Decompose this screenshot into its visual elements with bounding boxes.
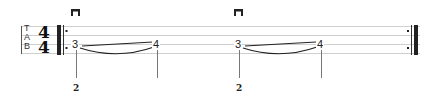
end-repeat-barline — [407, 25, 418, 55]
staff-lines — [22, 27, 420, 54]
fret-number[interactable]: 4 — [152, 39, 160, 50]
finger-number: 2 — [73, 83, 79, 93]
time-signature-denominator: 4 — [38, 40, 50, 55]
staff-graphics — [0, 0, 436, 99]
fret-number[interactable]: 3 — [234, 39, 242, 50]
tablature-staff: T A B 4 4 3 4 3 4 2 2 — [0, 0, 436, 99]
fret-number[interactable]: 4 — [316, 39, 324, 50]
start-repeat-barline — [57, 25, 68, 55]
fret-number[interactable]: 3 — [71, 39, 79, 50]
downstroke-icon — [71, 9, 80, 16]
tie-arcs — [80, 47, 317, 54]
tab-clef-b: B — [24, 42, 30, 51]
finger-number: 2 — [236, 83, 242, 93]
downstroke-icon — [234, 9, 243, 16]
